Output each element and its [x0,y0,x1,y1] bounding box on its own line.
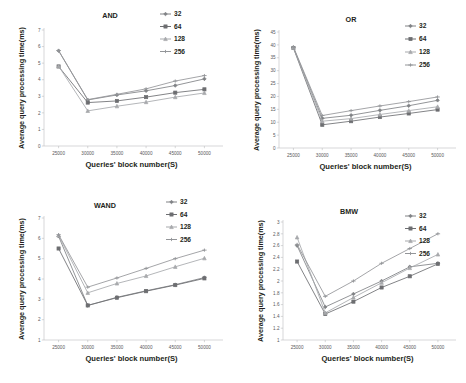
y-axis-title: Average query processing time(ms) [256,219,265,342]
series-line-128 [293,48,437,121]
x-tick-label: 35000 [345,153,358,158]
series-128-pt4-marker-triangle [407,109,411,113]
series-32-pt5-marker-diamond [203,77,207,81]
series-32-pt3-marker-diamond [378,109,382,113]
legend-wand: 3264128256 [166,198,191,243]
y-tick-label: 2 [38,317,41,322]
series-128-pt4-marker-triangle [173,265,177,269]
legend-label-256: 256 [419,250,430,257]
legend-label-128: 128 [419,48,430,55]
x-tick-label: 30000 [81,345,94,350]
series-line-128 [59,235,205,293]
x-tick-label: 25000 [287,153,300,158]
y-tick-label: 30 [270,68,276,73]
x-tick-label: 30000 [319,345,332,350]
series-128-pt5-marker-triangle [436,105,440,109]
series-128 [292,46,440,123]
x-tick-label: 25000 [52,345,65,350]
chart-body-and: AND0123456725000300003500040000450005000… [17,10,223,169]
series-64-pt5-marker-square [436,262,439,265]
y-tick-label: 3 [277,220,280,225]
series-128-pt3-marker-triangle [144,274,148,278]
chart-panel-wand: WAND123456725000300003500040000450005000… [0,192,233,383]
y-tick-label: 2.6 [273,243,280,248]
series-64 [292,46,439,126]
x-tick-label: 45000 [169,345,182,350]
y-tick-label: 25 [270,81,276,86]
series-64-pt2-marker-square [115,296,118,299]
series-64-pt0-marker-square [295,260,298,263]
series-64-pt2-marker-square [352,300,355,303]
y-tick-label: 7 [38,216,41,221]
y-tick-label: 2.8 [273,232,280,237]
y-tick-label: 2 [38,111,41,116]
x-tick-label: 35000 [347,345,360,350]
series-line-64 [59,249,205,306]
y-tick-label: 5 [38,61,41,66]
series-256 [56,49,206,101]
series-128-pt5-marker-triangle [436,253,440,256]
legend-label-32: 32 [174,10,182,17]
y-tick-label: 1 [38,338,41,343]
series-128-pt1-marker-triangle [86,291,90,295]
series-64-pt4-marker-square [408,275,411,278]
series-32-pt4-marker-diamond [407,104,411,108]
y-tick-label: 10 [270,120,276,125]
series-32 [57,235,206,308]
series-256-pt3-marker-cross [144,267,148,270]
series-128 [295,235,439,314]
legend-item-128-legend-marker-triangle [409,50,413,54]
x-tick-label: 40000 [140,345,153,350]
series-line-64 [293,48,437,125]
legend-label-256: 256 [174,48,185,55]
figure-panel-grid: AND0123456725000300003500040000450005000… [0,0,466,383]
chart-title-and: AND [102,11,118,20]
x-axis-title: Queries' block number(S) [85,354,178,363]
series-256-pt3-marker-cross [378,104,382,107]
series-line-32 [297,246,438,307]
legend-item-128-legend-marker-triangle [164,37,168,41]
y-tick-label: 1.8 [273,291,280,296]
series-128-pt1-marker-triangle [320,119,324,123]
series-line-128 [59,66,205,111]
legend-label-128: 128 [180,223,191,230]
chart-body-or: OR05101520253035404525000300003500040000… [252,15,456,171]
legend-item-64-legend-marker-square [409,227,412,230]
chart-body-bmw: BMW11.21.41.61.822.22.42.62.832500030000… [256,207,456,363]
x-tick-label: 50000 [432,345,445,350]
series-128-pt2-marker-triangle [352,296,356,300]
legend-label-32: 32 [180,198,188,205]
legend-label-64: 64 [180,211,188,218]
chart-svg-wand: WAND123456725000300003500040000450005000… [0,192,233,383]
legend-label-64: 64 [419,35,427,42]
series-64-pt1-marker-square [321,123,324,126]
legend-label-256: 256 [180,236,191,243]
series-256-pt1-marker-cross [86,286,90,289]
series-128-pt4-marker-triangle [173,95,177,99]
series-256-pt5-marker-cross [435,95,439,98]
series-128-pt5-marker-triangle [203,91,207,95]
y-tick-label: 1.6 [273,302,280,307]
chart-panel-or: OR05101520253035404525000300003500040000… [233,0,466,191]
x-tick-label: 40000 [140,151,153,156]
series-32-pt4-marker-diamond [173,84,177,88]
legend-or: 3264128256 [405,22,430,68]
y-tick-label: 1 [277,338,280,343]
x-axis-title: Queries' block number(S) [319,162,412,171]
series-64-pt2-marker-square [115,99,118,102]
series-64-pt3-marker-square [380,286,383,289]
series-64-pt3-marker-square [144,96,147,99]
legend-label-128: 128 [174,35,185,42]
legend-item-64-legend-marker-square [170,213,173,216]
y-tick-label: 1 [38,127,41,132]
chart-title-wand: WAND [94,201,116,210]
legend-label-256: 256 [419,61,430,68]
series-64-pt1-marker-square [86,304,89,307]
series-256-pt4-marker-cross [173,79,177,82]
y-axis-title: Average query processing time(ms) [252,28,261,151]
y-tick-label: 0 [273,146,276,151]
series-256-pt3-marker-cross [144,87,148,90]
y-tick-label: 6 [38,236,41,241]
chart-panel-bmw: BMW11.21.41.61.822.22.42.62.832500030000… [233,192,466,383]
x-axis-title: Queries' block number(S) [321,354,414,363]
